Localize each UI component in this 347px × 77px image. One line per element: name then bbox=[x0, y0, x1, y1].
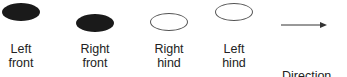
label-line: hind bbox=[204, 56, 264, 70]
label-line: front bbox=[65, 56, 125, 70]
label-line: Right bbox=[65, 42, 125, 56]
direction-caption: Direction bbox=[282, 69, 331, 77]
right-front-label: Right front bbox=[65, 42, 125, 70]
left-front-label: Left front bbox=[0, 42, 51, 70]
label-line: Right bbox=[139, 42, 199, 56]
direction-arrow-icon bbox=[281, 21, 327, 29]
left-hind-label: Left hind bbox=[204, 42, 264, 70]
left-hind-footprint bbox=[215, 3, 253, 21]
right-hind-footprint bbox=[150, 13, 188, 31]
label-line: Left bbox=[204, 42, 264, 56]
left-front-footprint bbox=[2, 3, 40, 21]
right-front-footprint bbox=[76, 14, 114, 32]
right-hind-label: Right hind bbox=[139, 42, 199, 70]
label-line: Left bbox=[0, 42, 51, 56]
label-line: front bbox=[0, 56, 51, 70]
label-line: hind bbox=[139, 56, 199, 70]
